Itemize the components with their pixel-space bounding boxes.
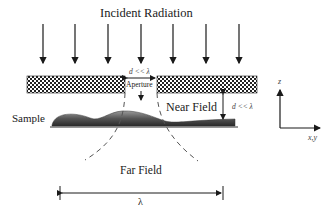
incident-radiation-label: Incident Radiation: [100, 6, 193, 21]
tip-sample-distance-label: d << λ: [232, 102, 253, 111]
xy-axis-label: x,y: [308, 133, 317, 142]
near-field-label: Near Field: [166, 100, 217, 115]
aperture-size-label: d << λ: [129, 67, 150, 76]
sample-label: Sample: [12, 112, 45, 124]
aperture-label: Aperture: [126, 80, 153, 89]
incident-arrows: [43, 24, 239, 63]
wavelength-label: λ: [138, 196, 143, 207]
z-axis-label: z: [278, 77, 281, 86]
far-field-label: Far Field: [120, 164, 162, 176]
near-field-diagram: Incident Radiation d << λ Aperture Near …: [0, 0, 335, 215]
coordinate-axes: [280, 90, 320, 128]
